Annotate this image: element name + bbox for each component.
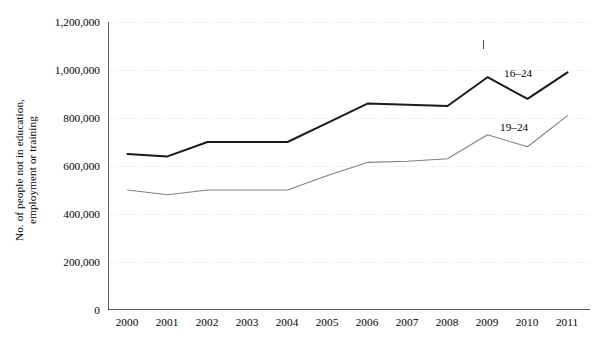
x-tick-label-2006: 2006	[345, 317, 389, 328]
series-line-16-24	[128, 72, 568, 156]
x-tick-label-2005: 2005	[305, 317, 349, 328]
y-tick-label-1200000: 1,200,000	[28, 17, 100, 28]
y-tick-label-200000: 200,000	[28, 257, 100, 268]
y-tick-label-600000: 600,000	[28, 161, 100, 172]
x-tick-label-2011: 2011	[545, 317, 589, 328]
x-tick-label-2001: 2001	[145, 317, 189, 328]
x-tick-label-2010: 2010	[505, 317, 549, 328]
plot-area	[108, 22, 590, 310]
y-tick-label-1000000: 1,000,000	[28, 65, 100, 76]
y-axis	[108, 22, 109, 310]
x-tick-label-2009: 2009	[465, 317, 509, 328]
chart-figure: No. of people not in education, employme…	[0, 0, 602, 340]
x-tick-label-2003: 2003	[225, 317, 269, 328]
x-axis	[108, 310, 590, 311]
gridlines	[108, 23, 590, 263]
x-tick-label-2000: 2000	[105, 317, 149, 328]
x-tick-label-2002: 2002	[185, 317, 229, 328]
x-tick-label-2007: 2007	[385, 317, 429, 328]
y-tick-label-400000: 400,000	[28, 209, 100, 220]
series-line-19-24	[128, 116, 568, 195]
x-tick-label-2004: 2004	[265, 317, 309, 328]
y-tick-label-0: 0	[28, 305, 100, 316]
y-tick-label-800000: 800,000	[28, 113, 100, 124]
x-tick-label-2008: 2008	[425, 317, 469, 328]
